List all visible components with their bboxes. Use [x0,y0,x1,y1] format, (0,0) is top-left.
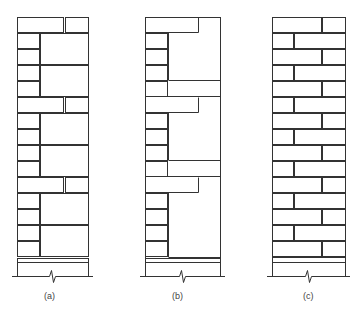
masonry-unit [295,66,346,81]
masonry-unit [146,194,168,209]
masonry-unit [18,98,64,113]
masonry-unit [273,98,294,113]
masonry-unit [146,242,168,257]
masonry-unit [18,178,64,193]
masonry-unit [273,34,294,49]
caption-c: (c) [303,291,314,301]
masonry-unit [295,34,346,49]
masonry-unit [323,50,346,65]
masonry-unit [41,146,89,177]
masonry-unit [18,259,89,263]
masonry-unit [273,18,322,33]
masonry-unit [323,210,346,225]
masonry-unit [41,34,89,65]
masonry-unit [273,210,322,225]
masonry-unit [146,50,168,65]
masonry-unit [323,178,346,193]
masonry-unit [146,162,168,177]
masonry-unit [323,18,346,33]
masonry-unit [18,130,40,145]
masonry-unit [273,50,322,65]
masonry-unit [273,226,294,241]
masonry-unit [41,226,89,257]
masonry-unit [295,194,346,209]
masonry-unit [146,82,168,97]
masonry-unit [66,178,89,193]
masonry-diagram [0,0,363,314]
masonry-unit [273,114,322,129]
masonry-unit [41,194,89,225]
masonry-unit [146,146,168,161]
masonry-unit [146,66,168,81]
masonry-unit [146,259,221,263]
masonry-unit [66,18,89,33]
break-line [140,271,225,283]
caption-b: (b) [172,291,183,301]
masonry-unit [18,226,40,241]
masonry-unit [18,210,40,225]
masonry-unit [41,114,89,145]
masonry-unit [18,194,40,209]
masonry-unit [273,66,294,81]
masonry-unit [146,226,168,241]
panel-b [140,18,225,283]
masonry-unit [18,146,40,161]
masonry-unit [295,130,346,145]
masonry-unit [323,146,346,161]
masonry-unit [146,114,168,129]
masonry-unit [273,194,294,209]
break-line [12,271,93,283]
masonry-unit [146,130,168,145]
masonry-unit [323,114,346,129]
caption-a: (a) [44,291,55,301]
masonry-unit [18,162,40,177]
masonry-unit [323,82,346,97]
panel-c [267,18,350,283]
masonry-unit [323,242,346,257]
break-line [267,271,350,283]
masonry-unit [18,50,40,65]
masonry-unit [146,34,168,49]
masonry-unit [295,98,346,113]
masonry-unit [18,66,40,81]
masonry-unit [146,210,168,225]
masonry-unit [273,242,322,257]
masonry-unit [273,146,322,161]
masonry-unit [273,82,322,97]
masonry-unit [295,226,346,241]
masonry-unit [295,162,346,177]
masonry-unit [273,258,346,263]
masonry-unit [273,178,322,193]
panel-a [12,18,93,283]
masonry-unit [273,130,294,145]
masonry-unit [18,18,64,33]
masonry-unit [18,114,40,129]
masonry-unit [18,242,40,257]
masonry-unit [41,66,89,97]
masonry-unit [273,162,294,177]
masonry-unit [18,34,40,49]
masonry-unit [66,98,89,113]
masonry-unit [18,82,40,97]
